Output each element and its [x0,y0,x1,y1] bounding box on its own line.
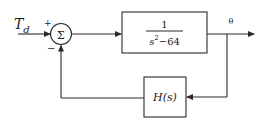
plus-sign: + [44,18,52,28]
input-label: Td [14,16,30,35]
block-diagram: Td + − Σ 1 s2−64 θ H(s) [0,0,260,120]
feedback-label: H(s) [152,91,177,104]
output-label: θ [229,17,234,26]
minus-sign: − [47,43,55,54]
sigma-symbol: Σ [57,29,65,42]
forward-denominator: s2−64 [149,34,180,47]
forward-numerator: 1 [161,19,167,30]
